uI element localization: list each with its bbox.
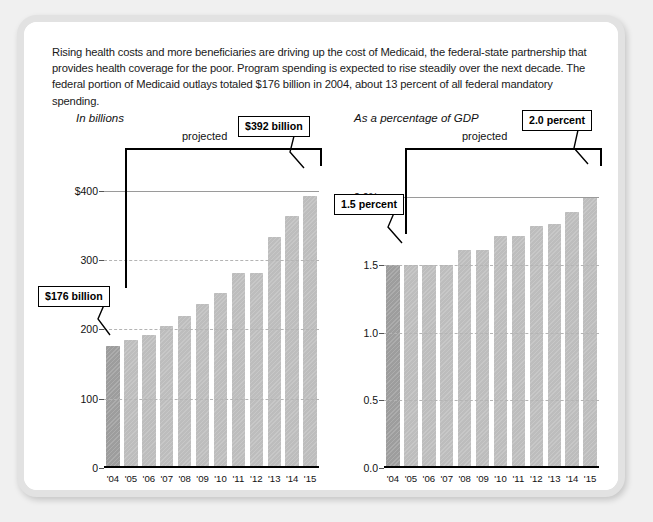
x-axis-label-08: '08 <box>456 473 474 484</box>
bar-10[interactable] <box>494 236 508 468</box>
bar-05[interactable] <box>404 265 418 468</box>
gridline <box>104 260 319 261</box>
projected-label-pct-gdp: projected <box>462 130 507 142</box>
bar-12[interactable] <box>250 273 264 468</box>
bar-slot <box>438 170 456 468</box>
chart-panel-pct-gdp: As a percentage of GDP 0.00.51.01.52.0% … <box>342 112 618 484</box>
bar-06[interactable] <box>142 335 156 468</box>
callout-1-5-leader-line <box>358 213 438 253</box>
chart-title-pct-gdp: As a percentage of GDP <box>354 112 479 124</box>
callout-176-leader-line <box>62 305 142 345</box>
chart-title-billions: In billions <box>76 112 124 124</box>
x-axis-labels-pct-gdp: '04'05'06'07'08'09'10'11'12'13'14'15 <box>384 473 599 484</box>
bar-08[interactable] <box>178 316 192 468</box>
x-axis-label-12: '12 <box>247 473 265 484</box>
bar-15[interactable] <box>303 196 317 468</box>
figure-card: Rising health costs and more beneficiari… <box>17 15 625 497</box>
bar-14[interactable] <box>285 216 299 468</box>
bar-13[interactable] <box>548 224 562 468</box>
bar-slot <box>456 170 474 468</box>
x-axis-label-07: '07 <box>158 473 176 484</box>
bar-06[interactable] <box>422 265 436 468</box>
x-axis-label-05: '05 <box>122 473 140 484</box>
y-axis-tick-mark <box>379 265 384 266</box>
bar-11[interactable] <box>512 236 526 468</box>
bar-slot <box>563 170 581 468</box>
x-axis-label-06: '06 <box>140 473 158 484</box>
bar-11[interactable] <box>232 273 246 468</box>
bar-slot <box>176 170 194 468</box>
bar-slot <box>265 170 283 468</box>
y-axis-tick-label: 1.5 <box>363 259 378 271</box>
chart-panel-billions: In billions 0100200300$400 '04'05'06'07'… <box>42 112 337 484</box>
bar-slot <box>212 170 230 468</box>
gridline <box>384 197 599 198</box>
x-axis-label-08: '08 <box>176 473 194 484</box>
y-axis-tick-label: 0.5 <box>363 394 378 406</box>
x-axis-label-10: '10 <box>212 473 230 484</box>
bar-slot <box>283 170 301 468</box>
gridline <box>384 265 599 266</box>
bar-14[interactable] <box>565 212 579 468</box>
x-axis-label-10: '10 <box>492 473 510 484</box>
x-axis-label-06: '06 <box>420 473 438 484</box>
bar-07[interactable] <box>160 326 174 468</box>
x-axis-label-09: '09 <box>194 473 212 484</box>
bar-slot <box>581 170 599 468</box>
bar-09[interactable] <box>476 250 490 468</box>
x-axis-label-14: '14 <box>563 473 581 484</box>
bar-04[interactable] <box>386 265 400 468</box>
callout-1-5-percent: 1.5 percent <box>334 194 404 215</box>
y-axis-tick-label: 300 <box>80 254 98 266</box>
gridline <box>104 191 319 192</box>
bar-12[interactable] <box>530 226 544 468</box>
y-axis-tick-mark <box>99 399 104 400</box>
x-axis-label-13: '13 <box>545 473 563 484</box>
bar-13[interactable] <box>268 237 282 468</box>
x-axis-label-13: '13 <box>265 473 283 484</box>
x-axis-label-07: '07 <box>438 473 456 484</box>
x-axis-pct-gdp <box>384 466 599 468</box>
callout-2-0-leader-line <box>522 130 612 172</box>
bar-slot <box>474 170 492 468</box>
bar-slot <box>158 170 176 468</box>
x-axis-label-05: '05 <box>402 473 420 484</box>
x-axis-label-04: '04 <box>104 473 122 484</box>
bar-04[interactable] <box>106 346 120 468</box>
y-axis-tick-mark <box>99 260 104 261</box>
gridline <box>104 399 319 400</box>
bar-slot <box>301 170 319 468</box>
callout-2-0-percent: 2.0 percent <box>522 110 592 131</box>
projected-label-billions: projected <box>182 130 227 142</box>
gridline <box>384 400 599 401</box>
x-axis-label-04: '04 <box>384 473 402 484</box>
x-axis-label-11: '11 <box>509 473 527 484</box>
y-axis-tick-mark <box>99 191 104 192</box>
y-axis-tick-label: 0.0 <box>363 462 378 474</box>
x-axis-label-14: '14 <box>283 473 301 484</box>
x-axis-labels-billions: '04'05'06'07'08'09'10'11'12'13'14'15 <box>104 473 319 484</box>
callout-392-leader-line <box>238 136 328 176</box>
bar-05[interactable] <box>124 340 138 468</box>
y-axis-tick-label: 0 <box>92 462 98 474</box>
bar-slot <box>527 170 545 468</box>
y-axis-tick-label: 1.0 <box>363 327 378 339</box>
page-root: Rising health costs and more beneficiari… <box>0 0 653 522</box>
x-axis-label-12: '12 <box>527 473 545 484</box>
callout-392-billion: $392 billion <box>238 116 310 137</box>
intro-paragraph: Rising health costs and more beneficiari… <box>52 44 600 109</box>
x-axis-label-15: '15 <box>581 473 599 484</box>
bar-07[interactable] <box>440 265 454 468</box>
figure-card-inner: Rising health costs and more beneficiari… <box>24 22 618 490</box>
x-axis-label-11: '11 <box>229 473 247 484</box>
x-axis-label-09: '09 <box>474 473 492 484</box>
x-axis-billions <box>104 466 319 468</box>
bar-10[interactable] <box>214 293 228 468</box>
y-axis-tick-mark <box>379 400 384 401</box>
y-axis-tick-mark <box>379 468 384 469</box>
bar-08[interactable] <box>458 250 472 468</box>
bar-slot <box>194 170 212 468</box>
y-axis-tick-label: 100 <box>80 393 98 405</box>
y-axis-tick-mark <box>99 468 104 469</box>
bar-slot <box>140 170 158 468</box>
